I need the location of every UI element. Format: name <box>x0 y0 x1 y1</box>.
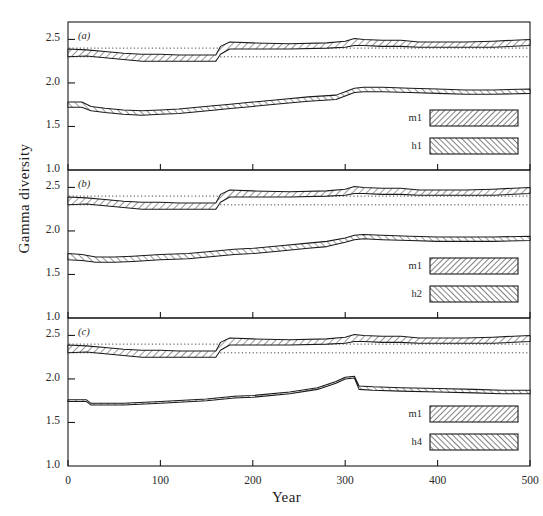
x-axis-title-text: Year <box>242 489 301 505</box>
series-band-h4 <box>68 376 530 405</box>
figure-container: Gamma diversity Year 1.01.52.02.5(a)m1h1… <box>0 0 543 516</box>
panel-id-2: (b) <box>78 178 90 189</box>
x-tick-label: 400 <box>418 474 458 486</box>
y-tick-label: 1.0 <box>26 310 60 322</box>
legend-swatch-h4 <box>430 434 518 450</box>
legend-label-m1: m1 <box>398 112 422 123</box>
series-band-m1 <box>68 39 530 62</box>
legend-label-m1: m1 <box>398 408 422 419</box>
legend-swatch-h1 <box>430 138 518 154</box>
legend-swatch-m1 <box>430 406 518 422</box>
y-tick-label: 2.5 <box>26 179 60 191</box>
x-tick-label: 0 <box>48 474 88 486</box>
legend-swatch-h2 <box>430 286 518 302</box>
legend-label-h1: h1 <box>398 140 422 151</box>
y-tick-label: 1.0 <box>26 458 60 470</box>
y-tick-label: 1.0 <box>26 162 60 174</box>
y-tick-label: 2.5 <box>26 31 60 43</box>
series-band-m1 <box>68 187 530 210</box>
panel-id-3: (c) <box>78 326 90 337</box>
x-tick-label: 300 <box>325 474 365 486</box>
legend-label-h2: h2 <box>398 288 422 299</box>
legend-swatch-m1 <box>430 110 518 126</box>
series-band-m1 <box>68 335 530 358</box>
y-tick-label: 2.5 <box>26 327 60 339</box>
x-tick-label: 500 <box>510 474 543 486</box>
y-axis-title: Gamma diversity <box>16 119 33 279</box>
y-tick-label: 2.0 <box>26 371 60 383</box>
y-tick-label: 1.5 <box>26 414 60 426</box>
y-tick-label: 2.0 <box>26 223 60 235</box>
legend-swatch-m1 <box>430 258 518 274</box>
chart-svg <box>0 0 543 516</box>
y-tick-label: 1.5 <box>26 266 60 278</box>
panel-id-1: (a) <box>78 30 90 41</box>
x-axis-title: Year <box>0 489 543 506</box>
y-tick-label: 1.5 <box>26 118 60 130</box>
legend-label-m1: m1 <box>398 260 422 271</box>
x-tick-label: 100 <box>140 474 180 486</box>
y-tick-label: 2.0 <box>26 75 60 87</box>
x-tick-label: 200 <box>233 474 273 486</box>
legend-label-h4: h4 <box>398 436 422 447</box>
